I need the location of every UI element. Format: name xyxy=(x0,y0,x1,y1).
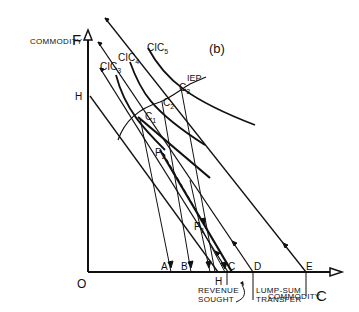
cic5-label: CIC5 xyxy=(147,43,168,53)
cic4-label: CIC4 xyxy=(118,53,139,63)
point-d-label: D xyxy=(254,262,261,272)
y-axis-symbol: F xyxy=(72,32,81,47)
panel-label: (b) xyxy=(209,42,225,55)
lump-sum-line2: TRANSFER xyxy=(256,296,302,304)
point-b-label: B xyxy=(181,262,188,272)
price-path xyxy=(138,117,232,272)
revenue-sought-line2: SOUGHT xyxy=(198,296,234,304)
c3-label: C3 xyxy=(179,83,190,93)
p1-label: P1 xyxy=(194,222,205,232)
y-axis-arrow-icon xyxy=(84,30,92,40)
point-e-label: E xyxy=(306,262,313,272)
point-c-label: C xyxy=(228,262,235,272)
cic3-label: CIC3 xyxy=(100,62,121,72)
iep-label: IEP xyxy=(187,74,202,83)
lump-sum-line1: LUMP-SUM xyxy=(256,287,301,295)
x-axis-symbol: C xyxy=(316,288,327,303)
c2-label: C2 xyxy=(163,98,174,108)
origin-label: O xyxy=(77,278,86,290)
point-a-label: A xyxy=(161,262,168,272)
c1-label: C1 xyxy=(145,112,156,122)
p2-label: P2 xyxy=(155,148,166,158)
h-vertical-label: H xyxy=(75,92,82,102)
revenue-sought-line1: REVENUE xyxy=(198,287,239,295)
x-axis-arrow-icon xyxy=(330,268,342,276)
budget-line-d xyxy=(98,42,253,272)
iep-curve xyxy=(118,77,206,140)
